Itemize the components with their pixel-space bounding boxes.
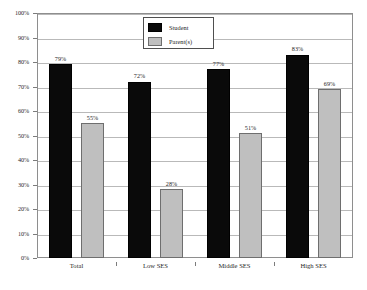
- y-tick-label: 90%: [18, 34, 29, 40]
- legend-label-parent: Parent(s): [169, 38, 192, 45]
- bar-value-label: 69%: [310, 81, 350, 87]
- x-tick-mark: [195, 262, 196, 266]
- x-tick-mark: [116, 262, 117, 266]
- x-axis: TotalLow SESMiddle SESHigh SES: [37, 262, 353, 278]
- chart-legend: Student Parent(s): [143, 17, 214, 49]
- y-tick-label: 80%: [18, 59, 29, 65]
- legend-item-parent: Parent(s): [148, 35, 213, 47]
- legend-item-student: Student: [148, 21, 213, 33]
- y-tick-label: 40%: [18, 157, 29, 163]
- x-tick-mark: [274, 262, 275, 266]
- bars-layer: 79%55%72%28%77%51%83%69%: [37, 13, 353, 258]
- x-tick-label: Total: [37, 262, 117, 270]
- bar-student: [286, 55, 309, 258]
- x-tick-label: High SES: [274, 262, 354, 270]
- legend-swatch-parent-icon: [148, 37, 162, 46]
- legend-swatch-student-icon: [148, 23, 162, 32]
- y-tick-label: 0%: [21, 255, 29, 261]
- x-tick-label: Low SES: [116, 262, 196, 270]
- y-tick-mark: [33, 258, 37, 259]
- y-tick-label: 70%: [18, 83, 29, 89]
- y-tick-label: 100%: [15, 10, 29, 16]
- bar-chart: 0%10%20%30%40%50%60%70%80%90%100% 79%55%…: [0, 0, 367, 290]
- y-tick-label: 20%: [18, 206, 29, 212]
- y-tick-label: 30%: [18, 181, 29, 187]
- bar-parent-s: [318, 89, 341, 258]
- y-axis: 0%10%20%30%40%50%60%70%80%90%100%: [0, 13, 34, 258]
- legend-label-student: Student: [169, 24, 189, 31]
- y-tick-label: 50%: [18, 132, 29, 138]
- y-tick-label: 60%: [18, 108, 29, 114]
- y-tick-label: 10%: [18, 230, 29, 236]
- bar-value-label: 83%: [278, 46, 318, 52]
- bar-group: 83%69%: [37, 13, 353, 258]
- x-tick-label: Middle SES: [195, 262, 275, 270]
